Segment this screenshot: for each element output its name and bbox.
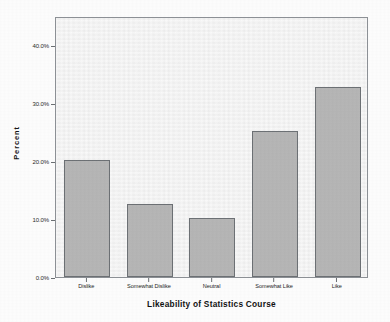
x-axis-tick-mark [148, 278, 149, 282]
bar-neutral[interactable] [189, 218, 235, 277]
bar-slot [244, 18, 307, 277]
x-axis-tick-label: Dislike [78, 283, 94, 289]
x-axis-tick-label: Like [332, 283, 342, 289]
x-axis-tick-mark [274, 278, 275, 282]
x-axis-tick: Somewhat Like [255, 278, 293, 289]
x-axis-tick-label: Neutral [203, 283, 221, 289]
y-axis-tick-mark [51, 46, 55, 47]
x-axis: DislikeSomewhat DislikeNeutralSomewhat L… [55, 278, 368, 298]
y-axis-tick-mark [51, 104, 55, 105]
bar-dislike[interactable] [64, 160, 110, 277]
x-axis-tick-mark [86, 278, 87, 282]
bar-slot [119, 18, 182, 277]
bar-somewhat-dislike[interactable] [127, 204, 173, 277]
y-axis-tick-mark [51, 162, 55, 163]
bar-like[interactable] [315, 87, 361, 277]
bar-slot [56, 18, 119, 277]
bars-layer [56, 18, 367, 277]
x-axis-tick-label: Somewhat Dislike [127, 283, 171, 289]
y-axis-tick-label: 30.0% [32, 101, 51, 107]
x-axis-tick: Somewhat Dislike [127, 278, 171, 289]
y-axis-tick-mark [51, 220, 55, 221]
y-axis-tick-label: 20.0% [32, 159, 51, 165]
bar-chart-figure: 0.0%10.0%20.0%30.0%40.0% Percent Dislike… [0, 0, 390, 322]
x-axis-title: Likeability of Statistics Course [55, 299, 368, 309]
plot-area [55, 17, 368, 278]
bar-slot [181, 18, 244, 277]
y-axis-tick-label: 40.0% [32, 43, 51, 49]
x-axis-tick-mark [336, 278, 337, 282]
x-axis-tick: Dislike [78, 278, 94, 289]
bar-somewhat-like[interactable] [252, 131, 298, 277]
y-axis-tick-label: 10.0% [32, 217, 51, 223]
y-axis: 0.0%10.0%20.0%30.0%40.0% [0, 17, 55, 278]
bar-slot [306, 18, 369, 277]
x-axis-tick-mark [211, 278, 212, 282]
y-axis-title: Percent [12, 126, 24, 160]
x-axis-tick-label: Somewhat Like [255, 283, 293, 289]
x-axis-tick: Like [332, 278, 342, 289]
x-axis-tick: Neutral [203, 278, 221, 289]
y-axis-tick-label: 0.0% [36, 275, 51, 281]
